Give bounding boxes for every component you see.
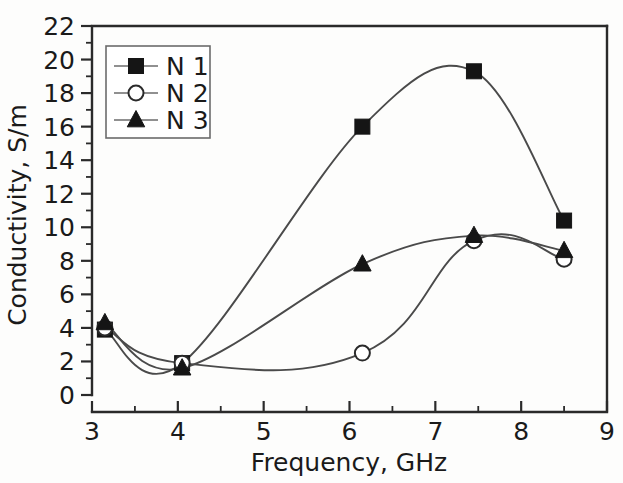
y-tick-label: 20 [43, 46, 75, 75]
chart-canvas: 02468101214161820223456789 N 1N 2N 3 Fre… [0, 0, 623, 483]
x-tick-label: 8 [513, 417, 529, 446]
x-axis-title: Frequency, GHz [251, 448, 447, 477]
data-marker-circle [129, 86, 144, 101]
chart-figure: 02468101214161820223456789 N 1N 2N 3 Fre… [0, 0, 623, 483]
y-tick-label: 0 [59, 381, 75, 410]
y-tick-label: 22 [43, 12, 75, 41]
y-tick-label: 4 [59, 314, 75, 343]
y-axis-title: Conductivity, S/m [3, 104, 32, 326]
data-marker-triangle [96, 313, 113, 329]
legend-label: N 3 [166, 106, 209, 135]
legend-label: N 1 [166, 52, 209, 81]
data-marker-square [466, 64, 481, 79]
series-markers [96, 226, 573, 375]
data-marker-square [129, 59, 144, 74]
y-tick-label: 12 [43, 180, 75, 209]
y-tick-label: 14 [43, 146, 75, 175]
data-marker-circle [355, 346, 370, 361]
y-tick-label: 10 [43, 213, 75, 242]
y-tick-label: 2 [59, 347, 75, 376]
y-tick-label: 6 [59, 280, 75, 309]
series-line [105, 235, 564, 369]
data-marker-triangle [465, 226, 482, 242]
series-group [105, 234, 564, 370]
y-tick-label: 16 [43, 113, 75, 142]
series-line [105, 234, 564, 370]
x-tick-label: 5 [256, 417, 272, 446]
x-tick-label: 6 [342, 417, 358, 446]
x-tick-label: 9 [599, 417, 615, 446]
data-marker-square [557, 213, 572, 228]
y-tick-label: 18 [43, 79, 75, 108]
y-tick-label: 8 [59, 247, 75, 276]
legend-label: N 2 [166, 79, 209, 108]
data-marker-triangle [354, 255, 371, 271]
x-tick-label: 4 [170, 417, 186, 446]
series-markers [97, 233, 571, 370]
x-tick-label: 7 [427, 417, 443, 446]
series-group [105, 235, 564, 369]
chart-legend: N 1N 2N 3 [106, 46, 210, 138]
x-tick-label: 3 [84, 417, 100, 446]
data-marker-square [355, 119, 370, 134]
